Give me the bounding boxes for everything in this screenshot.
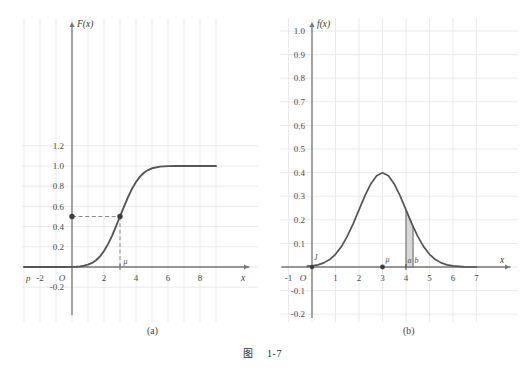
y-tick-label: 1.0 [53,161,65,171]
y-tick-label: 0.1 [294,239,305,249]
x-tick-label: 5 [427,273,432,283]
x-tick-label: 2 [102,273,107,283]
curve-start-label: J [314,253,318,262]
origin-label: O [300,273,307,283]
a-label: a [408,256,412,265]
x-tick-label: 2 [357,273,362,283]
panel-b-gridlines [280,18,518,322]
x-tick-label: 4 [134,273,139,283]
x-tick-label: 3 [380,273,385,283]
x-axis-arrow [505,264,510,269]
x-tick-label: 7 [474,273,479,283]
y-tick-label: -0.2 [291,309,305,319]
y-tick-label: 0.4 [53,222,65,232]
x-tick-label: 8 [198,273,203,283]
caption-label: 图 [243,348,253,359]
panel-b-tick-labels: -0.2-0.10.10.20.30.40.50.60.70.80.91.0-1… [285,19,505,319]
y-axis-name: F(x) [76,19,93,30]
y-tick-label: 0.6 [294,121,306,131]
y-tick-label: 0.3 [294,191,306,201]
y-tick-label: 0.4 [294,168,306,178]
mu-label: μ [385,255,390,264]
y-tick-label: 0.8 [53,181,65,191]
x-axis-arrow [244,264,249,269]
y-tick-label: 0.2 [53,242,64,252]
b-label: b [415,256,419,265]
panel-b-sublabel: (b) [403,326,415,336]
x-tick-label: 6 [451,273,456,283]
x-tick-label: 1 [333,273,338,283]
y-axis-arrow [309,22,314,27]
chart-panel-a: -0.20.20.40.60.81.01.2-22468OpF(x)xμ [0,0,265,340]
y-tick-label: 0.7 [294,97,306,107]
y-tick-label: -0.1 [291,286,305,296]
y-tick-label: -0.2 [50,282,64,292]
figure-container: -0.20.20.40.60.81.01.2-22468OpF(x)xμ -0.… [0,0,525,378]
curve-dot [117,214,122,219]
caption-number: 1-7 [267,348,282,359]
y-tick-label: 1.2 [53,141,64,151]
y-axis-name: f(x) [317,19,330,30]
x-tick-label: -2 [36,273,44,283]
y-tick-label: 1.0 [294,26,306,36]
x-axis-name: x [240,273,246,283]
origin-label: O [59,273,66,283]
x-axis-name: x [499,255,505,265]
panel-b-svg: -0.2-0.10.10.20.30.40.50.60.70.80.91.0-1… [262,0,525,340]
figure-caption: 图1-7 [0,345,525,360]
left-edge-label: p [25,273,31,283]
y-tick-label: 0.5 [294,144,306,154]
y-tick-label: 0.2 [294,215,305,225]
y-axis-dot [69,214,74,219]
y-tick-label: 0.9 [294,50,306,60]
x-tick-label: 4 [404,273,409,283]
x-tick-label: 6 [166,273,171,283]
panel-a-sublabel: (a) [147,326,158,336]
y-axis-arrow [69,22,74,27]
chart-panel-b: -0.2-0.10.10.20.30.40.50.60.70.80.91.0-1… [262,0,525,340]
panel-a-tick-labels: -0.20.20.40.60.81.01.2-22468OpF(x)xμ [25,19,246,292]
panel-a-annotations [69,214,122,270]
mu-label: μ [123,257,128,266]
x-tick-label: -1 [285,273,293,283]
y-tick-label: 0.6 [53,202,65,212]
y-tick-label: 0.8 [294,73,306,83]
mu-dot [380,265,385,270]
origin-dot [310,265,314,269]
panel-a-svg: -0.20.20.40.60.81.01.2-22468OpF(x)xμ [0,0,265,340]
